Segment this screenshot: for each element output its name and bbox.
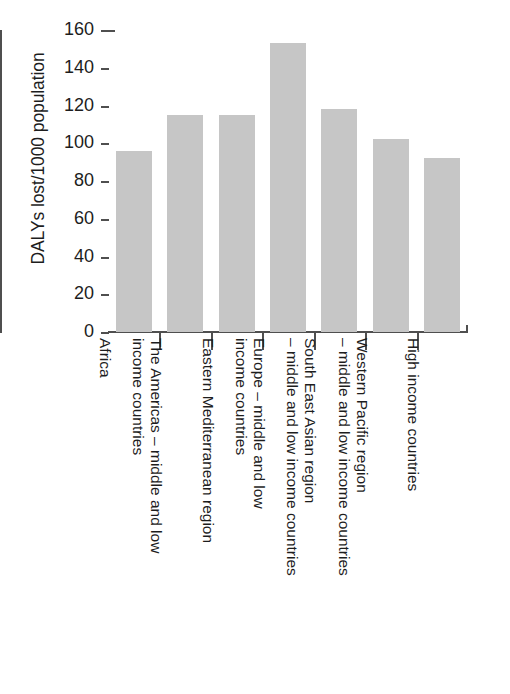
y-tick-label: 40	[24, 246, 94, 267]
y-axis-line	[0, 30, 2, 333]
bar	[373, 139, 409, 332]
y-tick-label: 100	[24, 132, 94, 153]
y-tick-label: 60	[24, 208, 94, 229]
bar	[321, 109, 357, 332]
x-axis-category-label: Europe – middle and lowincome countries	[232, 338, 268, 668]
x-axis-category-label: The Americas – middle and lowincome coun…	[129, 338, 165, 668]
y-tick-label: 160	[24, 19, 94, 40]
y-tick-label: 20	[24, 283, 94, 304]
x-axis-category-label: South East Asian region– middle and low …	[283, 338, 319, 668]
y-tick: 0	[101, 332, 109, 334]
x-axis-category-label: High income countries	[404, 338, 422, 668]
y-tick-label: 120	[24, 95, 94, 116]
bar	[219, 115, 255, 332]
bar-chart: DALYs lost/1000 population 1601401201008…	[0, 0, 510, 694]
x-axis-category-labels: AfricaThe Americas – middle and lowincom…	[108, 338, 468, 688]
bar	[167, 115, 203, 332]
bar	[116, 151, 152, 332]
x-axis-category-label: Eastern Mediterranean region	[199, 338, 217, 668]
y-tick-label: 0	[24, 321, 94, 342]
y-tick-label: 80	[24, 170, 94, 191]
y-tick-label: 140	[24, 57, 94, 78]
bars-layer	[108, 30, 468, 332]
x-axis-category-label: Africa	[96, 338, 114, 668]
bar	[270, 43, 306, 332]
x-axis-category-label: Western Pacific region– middle and low i…	[335, 338, 371, 668]
bar	[424, 158, 460, 332]
